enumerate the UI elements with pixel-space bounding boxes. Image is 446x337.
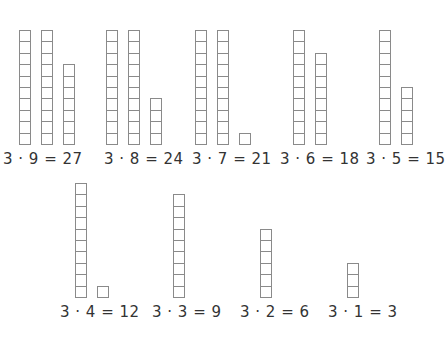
block-column	[19, 30, 31, 337]
unit-block	[75, 286, 87, 298]
block-column	[401, 87, 413, 337]
unit-block	[195, 133, 207, 145]
block-column	[150, 98, 162, 337]
block-column	[217, 30, 229, 337]
block-column	[195, 30, 207, 337]
unit-block	[260, 286, 272, 298]
unit-block	[19, 133, 31, 145]
equation-label: 3 · 7 = 21	[192, 150, 272, 168]
equation-label: 3 · 6 = 18	[280, 150, 360, 168]
equation-label: 3 · 9 = 27	[3, 150, 83, 168]
block-column	[379, 30, 391, 337]
unit-block	[217, 133, 229, 145]
equation-label: 3 · 1 = 3	[328, 303, 398, 321]
unit-block	[315, 133, 327, 145]
equation-label: 3 · 5 = 15	[366, 150, 446, 168]
block-column	[41, 30, 53, 337]
unit-block	[173, 286, 185, 298]
unit-block	[63, 133, 75, 145]
block-column	[128, 30, 140, 337]
unit-block	[401, 133, 413, 145]
block-column	[315, 53, 327, 337]
unit-block	[150, 133, 162, 145]
unit-block	[379, 133, 391, 145]
unit-block	[128, 133, 140, 145]
block-column	[293, 30, 305, 337]
equation-label: 3 · 3 = 9	[152, 303, 222, 321]
unit-block	[41, 133, 53, 145]
unit-block	[347, 286, 359, 298]
unit-block	[239, 133, 251, 145]
block-column	[347, 263, 359, 337]
unit-block	[106, 133, 118, 145]
block-column	[63, 64, 75, 337]
unit-block	[293, 133, 305, 145]
unit-block	[97, 286, 109, 298]
equation-label: 3 · 8 = 24	[104, 150, 184, 168]
equation-label: 3 · 2 = 6	[240, 303, 310, 321]
equation-label: 3 · 4 = 12	[60, 303, 140, 321]
